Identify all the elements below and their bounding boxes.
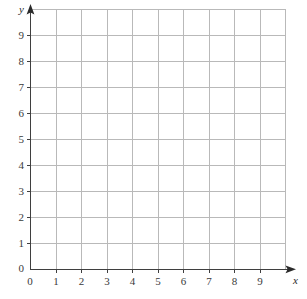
- x-axis-label: x: [293, 275, 298, 286]
- x-tick-label-4: 4: [126, 276, 140, 287]
- x-tick-label-1: 1: [49, 276, 63, 287]
- x-tick-label-2: 2: [75, 276, 89, 287]
- y-tick-label-7: 7: [10, 82, 24, 93]
- coordinate-grid-figure: 0 1 2 3 4 5 6 7 8 9 0 1 2 3 4 5 6 7 8 9 …: [0, 0, 307, 299]
- y-tick-label-9: 9: [10, 30, 24, 41]
- y-tick-label-8: 8: [10, 56, 24, 67]
- x-tick-label-0: 0: [23, 276, 37, 287]
- y-tick-label-0: 0: [10, 263, 24, 274]
- y-tick-label-2: 2: [10, 212, 24, 223]
- y-tick-label-6: 6: [10, 108, 24, 119]
- x-tick-label-9: 9: [253, 276, 267, 287]
- x-tick-label-8: 8: [228, 276, 242, 287]
- y-tick-label-1: 1: [10, 238, 24, 249]
- x-tick-label-3: 3: [100, 276, 114, 287]
- x-tick-label-5: 5: [151, 276, 165, 287]
- grid-canvas: [0, 0, 307, 299]
- y-axis-line: [27, 4, 35, 270]
- y-tick-label-3: 3: [10, 186, 24, 197]
- x-tick-label-6: 6: [177, 276, 191, 287]
- x-tick-label-7: 7: [202, 276, 216, 287]
- y-tick-label-5: 5: [10, 134, 24, 145]
- y-tick-label-4: 4: [10, 160, 24, 171]
- x-axis-line: [31, 265, 297, 273]
- y-axis-label: y: [19, 4, 24, 15]
